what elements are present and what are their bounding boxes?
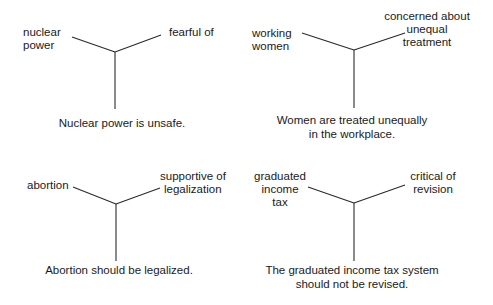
y-diagram-graduated-income-tax [308, 185, 405, 261]
attitude-branch-line [116, 188, 160, 204]
topic-branch-line [302, 33, 354, 50]
belief-line: Women are treated unequally [277, 113, 428, 127]
topic-branch-line [72, 37, 115, 52]
belief-statement-working-women: Women are treated unequally in the workp… [277, 113, 428, 141]
topic-label-line: nuclear [23, 26, 61, 39]
topic-label-line: working [252, 27, 292, 40]
belief-line: in the workplace. [277, 127, 428, 141]
topic-label-graduated-income-tax: graduated income tax [254, 170, 306, 209]
topic-label-line: abortion [27, 179, 69, 192]
attitude-label-line: fearful of [169, 26, 214, 39]
topic-label-line: graduated [254, 170, 306, 183]
topic-branch-line [73, 187, 116, 204]
attitude-label-line: unequal [384, 23, 470, 36]
belief-line: The graduated income tax system [265, 263, 438, 277]
topic-label-line: income [254, 183, 306, 196]
topic-label-line: women [252, 40, 292, 53]
attitude-label-line: supportive of [160, 170, 226, 183]
attitude-label-line: critical of [410, 170, 455, 183]
topic-label-nuclear-power: nuclear power [23, 26, 61, 52]
topic-label-line: power [23, 39, 61, 52]
belief-statement-graduated-income-tax: The graduated income tax system should n… [265, 263, 438, 291]
attitude-label-critical-of-revision: critical of revision [410, 170, 455, 196]
topic-label-line: tax [254, 196, 306, 209]
belief-line: Nuclear power is unsafe. [59, 116, 186, 130]
belief-line: Abortion should be legalized. [45, 263, 193, 277]
attitude-label-line: treatment [384, 36, 470, 49]
topic-label-abortion: abortion [27, 179, 69, 192]
topic-label-working-women: working women [252, 27, 292, 53]
belief-statement-nuclear-power: Nuclear power is unsafe. [59, 116, 186, 130]
belief-line: should not be revised. [265, 277, 438, 291]
y-diagram-nuclear-power [72, 35, 161, 109]
topic-branch-line [308, 187, 354, 203]
attitude-branch-line [115, 35, 161, 52]
attitude-branch-line [354, 185, 405, 203]
attitude-label-concerned-about-unequal-treatment: concerned about unequal treatment [384, 10, 470, 49]
attitude-label-line: legalization [160, 183, 226, 196]
attitude-label-supportive-of-legalization: supportive of legalization [160, 170, 226, 196]
attitude-label-line: concerned about [384, 10, 470, 23]
belief-statement-abortion: Abortion should be legalized. [45, 263, 193, 277]
attitude-label-fearful-of: fearful of [169, 26, 214, 39]
attitude-label-line: revision [410, 183, 455, 196]
y-diagram-abortion [73, 187, 160, 261]
